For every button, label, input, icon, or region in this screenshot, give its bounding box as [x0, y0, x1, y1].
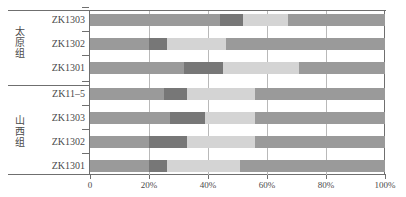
- stacked-bar-chart: 太 原 组 山 西 组 ZK1303ZK1302ZK1301ZK11–5ZK13…: [0, 0, 406, 197]
- bar-segment-2: [184, 62, 222, 74]
- bar-segment-2: [149, 160, 167, 172]
- bar-segment-2: [149, 136, 187, 148]
- row-label: ZK1301: [28, 160, 85, 172]
- group-label-taiyuan-char-1: 原: [12, 37, 28, 48]
- bar-segment-3: [187, 88, 255, 100]
- bar-segment-4: [255, 136, 385, 148]
- x-tick-label: 0: [88, 180, 93, 191]
- bar-segment-3: [167, 160, 241, 172]
- chart-bottom-rule: [8, 174, 386, 175]
- x-tick-100%: [385, 175, 386, 179]
- x-tick-label: 20%: [141, 180, 158, 191]
- bar-segment-1: [90, 88, 164, 100]
- x-tick-40%: [208, 175, 209, 179]
- bar-segment-1: [90, 112, 170, 124]
- row-tick: [82, 129, 89, 130]
- row-label: ZK1302: [28, 136, 85, 148]
- row-label: ZK1303: [28, 14, 85, 26]
- row-label: ZK11–5: [28, 88, 85, 100]
- table-row: [90, 88, 385, 100]
- group-label-shanxi-char-2: 组: [12, 137, 28, 148]
- x-tick-label: 100%: [375, 180, 396, 191]
- x-tick-label: 40%: [200, 180, 217, 191]
- bar-segment-3: [223, 62, 300, 74]
- bar-segment-4: [226, 38, 385, 50]
- group-label-taiyuan: 太 原 组: [12, 26, 28, 59]
- table-row: [90, 62, 385, 74]
- group-label-shanxi: 山 西 组: [12, 115, 28, 148]
- bar-segment-4: [240, 160, 385, 172]
- x-tick-20%: [149, 175, 150, 179]
- bar-segment-1: [90, 136, 149, 148]
- row-tick: [82, 81, 89, 82]
- x-tick-80%: [326, 175, 327, 179]
- row-label: ZK1303: [28, 112, 85, 124]
- table-row: [90, 112, 385, 124]
- x-tick-label: 60%: [259, 180, 276, 191]
- row-label: ZK1301: [28, 62, 85, 74]
- group-label-taiyuan-char-2: 组: [12, 48, 28, 59]
- group-label-shanxi-char-0: 山: [12, 115, 28, 126]
- group-label-taiyuan-char-0: 太: [12, 26, 28, 37]
- bar-segment-1: [90, 160, 149, 172]
- bar-segment-4: [255, 88, 385, 100]
- bar-segment-1: [90, 62, 184, 74]
- x-tick-0: [90, 175, 91, 179]
- row-tick: [82, 7, 89, 8]
- group-separator: [8, 85, 89, 86]
- bar-segment-2: [164, 88, 188, 100]
- bar-segment-3: [205, 112, 255, 124]
- table-row: [90, 136, 385, 148]
- table-row: [90, 160, 385, 172]
- row-tick: [82, 105, 89, 106]
- x-tick-label: 80%: [318, 180, 335, 191]
- bar-segment-2: [149, 38, 167, 50]
- row-tick: [82, 31, 89, 32]
- bar-segment-2: [170, 112, 205, 124]
- row-tick: [82, 153, 89, 154]
- table-row: [90, 14, 385, 26]
- bar-segment-1: [90, 14, 220, 26]
- row-label: ZK1302: [28, 38, 85, 50]
- bar-segment-4: [299, 62, 385, 74]
- group-label-shanxi-char-1: 西: [12, 126, 28, 137]
- row-tick: [82, 55, 89, 56]
- bar-segment-4: [255, 112, 385, 124]
- bar-segment-3: [167, 38, 226, 50]
- bar-segment-4: [288, 14, 385, 26]
- table-row: [90, 38, 385, 50]
- bar-segment-1: [90, 38, 149, 50]
- bar-segment-2: [220, 14, 244, 26]
- bar-segment-3: [187, 136, 255, 148]
- bar-segment-3: [243, 14, 287, 26]
- x-tick-60%: [267, 175, 268, 179]
